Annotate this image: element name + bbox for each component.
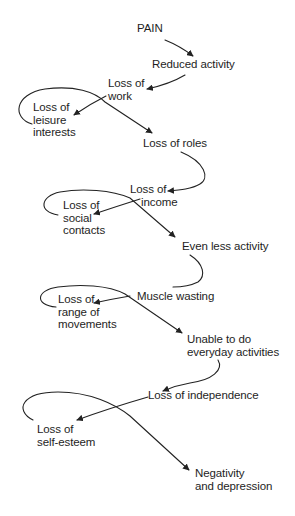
node-unable-line1: Unable to do xyxy=(187,333,279,346)
node-social-line1: Loss of xyxy=(63,199,105,212)
arrow-independence-to-self-esteem xyxy=(77,397,148,420)
arrow-pain-to-reduced-activity xyxy=(165,40,193,56)
node-social-line3: contacts xyxy=(63,224,105,237)
node-reduced-activity: Reduced activity xyxy=(152,58,235,71)
node-income-line2: income xyxy=(130,196,177,209)
pain-cycle-diagram: PAIN Reduced activity Loss of work Loss … xyxy=(0,0,295,516)
node-income-line1: Loss of xyxy=(130,183,177,196)
node-reduced-activity-label: Reduced activity xyxy=(152,58,235,71)
node-loss-of-income: Loss of income xyxy=(130,183,177,208)
node-pain: PAIN xyxy=(137,22,163,35)
node-negativity-line2: and depression xyxy=(195,480,272,493)
node-loss-of-roles: Loss of roles xyxy=(143,137,207,150)
node-loss-of-work-line1: Loss of xyxy=(108,77,144,90)
node-independence-label: Loss of independence xyxy=(148,389,259,402)
node-muscle-wasting-label: Muscle wasting xyxy=(137,290,214,303)
node-loss-of-work: Loss of work xyxy=(108,77,144,102)
node-muscle-wasting: Muscle wasting xyxy=(137,290,214,303)
node-leisure-line1: Loss of xyxy=(33,101,76,114)
arrow-unable-to-independence xyxy=(163,360,220,391)
node-loss-of-leisure-interests: Loss of leisure interests xyxy=(33,101,76,139)
node-loss-of-self-esteem: Loss of self-esteem xyxy=(37,423,95,448)
node-unable-line2: everyday activities xyxy=(187,346,279,359)
node-negativity-depression: Negativity and depression xyxy=(195,467,272,492)
node-pain-label: PAIN xyxy=(137,22,163,35)
node-loss-of-work-line2: work xyxy=(108,90,144,103)
node-range-line2: range of xyxy=(58,306,117,319)
arrow-reduced-to-loss-of-work xyxy=(147,75,185,89)
node-even-less-activity: Even less activity xyxy=(182,240,268,253)
node-self-esteem-line1: Loss of xyxy=(37,423,95,436)
node-negativity-line1: Negativity xyxy=(195,467,272,480)
node-social-line2: social xyxy=(63,212,105,225)
arrow-even-less-to-muscle xyxy=(173,255,203,287)
node-even-less-activity-label: Even less activity xyxy=(182,240,268,253)
node-self-esteem-line2: self-esteem xyxy=(37,436,95,449)
node-range-line3: movements xyxy=(58,318,117,331)
node-unable-everyday-activities: Unable to do everyday activities xyxy=(187,333,279,358)
node-leisure-line2: leisure xyxy=(33,114,76,127)
node-leisure-line3: interests xyxy=(33,126,76,139)
node-loss-of-independence: Loss of independence xyxy=(148,389,259,402)
node-loss-of-social-contacts: Loss of social contacts xyxy=(63,199,105,237)
node-loss-of-roles-label: Loss of roles xyxy=(143,137,207,150)
node-loss-of-range-of-movements: Loss of range of movements xyxy=(58,293,117,331)
node-range-line1: Loss of xyxy=(58,293,117,306)
